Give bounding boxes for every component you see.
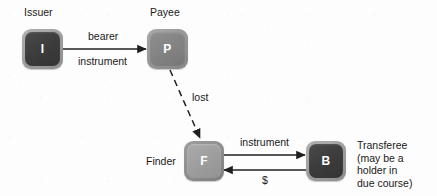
node-transferee-glyph: B xyxy=(322,155,331,167)
node-issuer-glyph: I xyxy=(41,43,45,55)
edge-label-instrument-issuer-payee: instrument xyxy=(78,55,127,68)
node-payee-inner: P xyxy=(150,32,185,66)
node-caption-transferee: Transferee (may be a holder in due cours… xyxy=(357,139,412,189)
node-transferee-inner: B xyxy=(309,144,343,178)
node-issuer[interactable]: I xyxy=(22,29,63,69)
node-finder-glyph: F xyxy=(200,155,208,167)
node-transferee[interactable]: B xyxy=(306,141,346,181)
bearer-instrument-diagram: Issuer I Payee P Finder F Transferee (ma… xyxy=(0,0,437,196)
node-caption-issuer: Issuer xyxy=(24,6,53,19)
edge-label-bearer: bearer xyxy=(88,30,118,43)
node-payee-glyph: P xyxy=(163,43,171,55)
edge-label-dollar: $ xyxy=(262,174,268,187)
edge-payee-to-finder xyxy=(170,70,200,138)
node-finder[interactable]: F xyxy=(184,141,224,181)
node-payee[interactable]: P xyxy=(147,29,188,69)
node-issuer-inner: I xyxy=(25,32,60,66)
edge-label-lost: lost xyxy=(192,91,208,104)
node-caption-payee: Payee xyxy=(150,6,180,19)
edge-label-instrument-finder-transferee: instrument xyxy=(240,136,289,149)
node-caption-finder: Finder xyxy=(146,155,176,168)
node-finder-inner: F xyxy=(187,144,221,178)
